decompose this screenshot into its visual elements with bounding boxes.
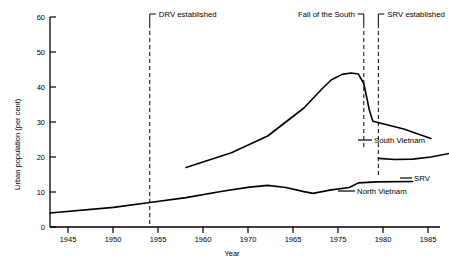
y-tick-label: 10 — [37, 188, 45, 197]
y-tick-labels: 0 10 20 30 40 50 60 — [37, 13, 45, 232]
srv-annotation-label: SRV established — [387, 10, 445, 19]
series-line-south-vietnam — [186, 73, 431, 168]
x-tick-marks — [68, 227, 428, 233]
x-tick-label: 1985 — [420, 235, 437, 244]
x-tick-label: 1965 — [285, 235, 302, 244]
x-tick-label: 1945 — [60, 235, 77, 244]
y-axis-title: Urban population (per cent) — [13, 98, 22, 190]
x-tick-label: 1975 — [330, 235, 347, 244]
y-tick-label: 20 — [37, 153, 45, 162]
x-tick-label: 1980 — [375, 235, 392, 244]
x-tick-label: 1950 — [105, 235, 122, 244]
annotation-srv-established: SRV established — [378, 10, 445, 178]
series-label-south-vietnam: South Vietnam — [374, 136, 425, 145]
chart-canvas: Urban population (per cent) Year 0 10 20… — [0, 0, 449, 272]
y-tick-label: 50 — [37, 48, 45, 57]
fall-annotation-label: Fall of the South — [298, 10, 355, 19]
x-tick-label: 1960 — [195, 235, 212, 244]
x-tick-label: 1970 — [240, 235, 257, 244]
y-tick-label: 0 — [41, 223, 45, 232]
fall-elbow — [358, 14, 364, 24]
series-label-north-vietnam: North Vietnam — [357, 187, 407, 196]
y-tick-label: 40 — [37, 83, 45, 92]
x-axis-title: Year — [224, 249, 240, 258]
y-tick-label: 60 — [37, 13, 45, 22]
x-tick-labels: 1945 1950 1955 1960 1970 1965 1975 1980 … — [60, 235, 437, 244]
drv-elbow — [150, 14, 156, 24]
urban-population-chart: Urban population (per cent) Year 0 10 20… — [0, 0, 449, 272]
srv-elbow — [378, 14, 384, 24]
x-tick-label: 1955 — [150, 235, 167, 244]
y-tick-label: 30 — [37, 118, 45, 127]
drv-annotation-label: DRV established — [159, 10, 217, 19]
series-line-srv — [378, 154, 449, 160]
y-tick-marks — [50, 17, 56, 227]
series-label-srv: SRV — [414, 174, 431, 183]
